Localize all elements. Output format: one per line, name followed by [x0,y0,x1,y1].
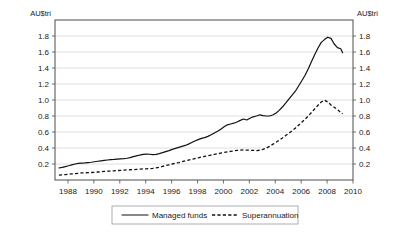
x-tick-label: 2000 [215,187,233,196]
x-tick-label: 2008 [318,187,336,196]
x-tick-label: 1988 [59,187,77,196]
y-tick-label-right: 1.2 [359,80,371,89]
y-tick-label-left: 0.8 [38,112,50,121]
legend-label: Managed funds [152,211,207,220]
y-tick-label-right: 0.8 [359,112,371,121]
x-tick-label: 2006 [292,187,310,196]
x-tick-label: 2002 [240,187,258,196]
x-axis-tick-labels: 1988199019921994199619982000200220042006… [59,187,362,196]
y-tick-label-right: 0.6 [359,128,371,137]
y-tick-label-left: 0.4 [38,144,50,153]
y-tick-label-left: 1.2 [38,80,50,89]
y-tick-label-left: 1.4 [38,64,50,73]
y-tick-label-right: 1.8 [359,32,371,41]
x-tick-label: 2010 [344,187,362,196]
y-tick-label-right: 1.0 [359,96,371,105]
x-tick-label: 1996 [163,187,181,196]
x-tick-label: 1992 [111,187,129,196]
x-tick-label: 1990 [85,187,103,196]
legend-label: Superannuation [242,211,299,220]
x-axis-ticks [68,180,353,184]
y-axis-unit-label-left: AU$tri [30,9,51,18]
gridlines-group [55,36,353,164]
x-tick-label: 1994 [137,187,155,196]
x-tick-label: 1998 [189,187,207,196]
legend: Managed fundsSuperannuation [112,206,299,224]
line-chart: 0.20.40.60.81.01.21.41.61.8 0.20.40.60.8… [0,0,408,238]
y-tick-label-left: 1.6 [38,48,50,57]
series-group [59,37,343,175]
y-tick-label-left: 1.8 [38,32,50,41]
y-tick-label-right: 1.4 [359,64,371,73]
y-tick-label-right: 1.6 [359,48,371,57]
y-tick-label-left: 0.6 [38,128,50,137]
y-axis-tick-labels-right: 0.20.40.60.81.01.21.41.61.8 [359,32,371,169]
y-tick-label-left: 1.0 [38,96,50,105]
series-line-managed-funds [59,37,343,168]
y-tick-label-right: 0.4 [359,144,371,153]
chart-container: 0.20.40.60.81.01.21.41.61.8 0.20.40.60.8… [0,0,408,238]
y-tick-label-right: 0.2 [359,160,371,169]
y-axis-unit-label-right: AU$tri [357,9,378,18]
y-axis-tick-labels-left: 0.20.40.60.81.01.21.41.61.8 [38,32,50,169]
y-tick-label-left: 0.2 [38,160,50,169]
x-tick-label: 2004 [266,187,284,196]
